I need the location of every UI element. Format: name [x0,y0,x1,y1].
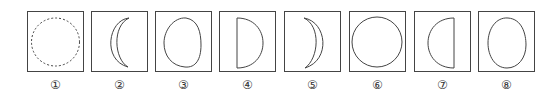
panel-6 [349,11,406,72]
crescent-left-icon [92,12,147,71]
oval-icon [479,12,534,71]
panel-5 [284,11,341,72]
panel-8 [478,11,535,72]
half-circle-right-icon [220,12,275,71]
panel-label-3: ③ [155,77,212,93]
panel-label-6: ⑥ [349,77,406,93]
panel-label-8: ⑧ [478,77,535,93]
dashed-circle-icon [28,12,83,71]
half-circle-left-icon [415,12,470,71]
panel-4 [219,11,276,72]
panel-7 [414,11,471,72]
panel-label-2: ② [91,77,148,93]
full-circle-icon [350,12,405,71]
panel-2 [91,11,148,72]
panel-1 [27,11,84,72]
oval-bulging-icon [156,12,211,71]
panel-label-1: ① [27,77,84,93]
panel-label-4: ④ [219,77,276,93]
panel-label-5: ⑤ [284,77,341,93]
panel-label-7: ⑦ [414,77,471,93]
crescent-right-icon [285,12,340,71]
panel-3 [155,11,212,72]
